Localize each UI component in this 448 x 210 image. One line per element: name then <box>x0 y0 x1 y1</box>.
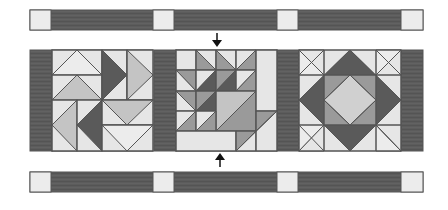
spacer-strip <box>277 50 299 151</box>
spacer-strip <box>30 50 52 151</box>
pinwheel-flying-geese-block <box>52 50 153 151</box>
cornerstone <box>30 10 51 30</box>
basket-block <box>176 50 277 151</box>
top-sashing-strip <box>30 10 423 30</box>
spacer-strip <box>154 50 176 151</box>
quilt-assembly-diagram <box>0 0 448 210</box>
cornerstone <box>401 10 423 30</box>
spacer-strip <box>401 50 423 151</box>
block-row <box>30 50 423 151</box>
cornerstone <box>401 172 423 192</box>
cornerstone <box>153 172 174 192</box>
cornerstone <box>277 172 298 192</box>
cornerstone <box>153 10 174 30</box>
square-in-square-block <box>299 50 401 151</box>
bottom-sashing-strip <box>30 172 423 192</box>
up-arrow-icon <box>215 153 225 167</box>
down-arrow-icon <box>212 33 222 47</box>
cornerstone <box>30 172 51 192</box>
cornerstone <box>277 10 298 30</box>
